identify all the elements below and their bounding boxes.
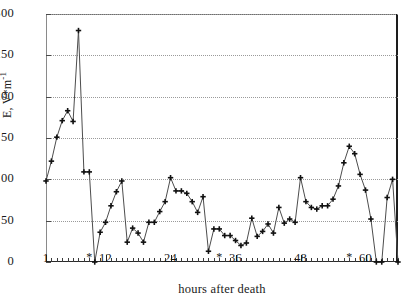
data-point bbox=[125, 239, 130, 244]
x-axis-star-marker: * bbox=[346, 250, 352, 265]
y-axis-tick-label: 300 bbox=[0, 7, 14, 19]
data-point bbox=[157, 209, 162, 214]
data-point bbox=[292, 220, 297, 225]
data-point bbox=[195, 210, 200, 215]
chart-figure: E, V*m-1 050100150200250300 11224364860*… bbox=[0, 0, 418, 304]
y-axis-title-exponent: -1 bbox=[0, 72, 8, 80]
data-point bbox=[114, 189, 119, 194]
data-point bbox=[87, 169, 92, 174]
data-point bbox=[249, 215, 254, 220]
data-point bbox=[97, 230, 102, 235]
data-point bbox=[374, 259, 379, 264]
data-point bbox=[336, 183, 341, 188]
y-axis-tick-label: 0 bbox=[0, 255, 14, 267]
data-series bbox=[46, 14, 398, 262]
data-point bbox=[298, 175, 303, 180]
y-axis-tick-label: 50 bbox=[0, 214, 14, 226]
data-point bbox=[395, 259, 400, 264]
data-point bbox=[190, 199, 195, 204]
data-point bbox=[162, 199, 167, 204]
data-point bbox=[271, 230, 276, 235]
plot-area bbox=[46, 14, 398, 262]
y-axis-tick-label: 150 bbox=[0, 131, 14, 143]
x-axis-tick-label: 24 bbox=[164, 251, 177, 266]
data-point bbox=[108, 203, 113, 208]
data-point bbox=[168, 175, 173, 180]
data-point bbox=[173, 188, 178, 193]
data-point bbox=[244, 240, 249, 245]
data-point bbox=[314, 206, 319, 211]
data-point bbox=[276, 205, 281, 210]
data-point bbox=[184, 191, 189, 196]
data-point bbox=[54, 134, 59, 139]
data-point bbox=[363, 187, 368, 192]
data-point bbox=[211, 226, 216, 231]
x-axis-star-marker: * bbox=[86, 250, 92, 265]
y-axis-tick-label: 100 bbox=[0, 172, 14, 184]
x-axis-tick-label: 1 bbox=[43, 251, 50, 266]
series-markers bbox=[43, 28, 400, 265]
data-point bbox=[341, 160, 346, 165]
data-point bbox=[384, 195, 389, 200]
data-point bbox=[141, 239, 146, 244]
data-point bbox=[65, 108, 70, 113]
data-point bbox=[81, 169, 86, 174]
data-point bbox=[368, 216, 373, 221]
data-point bbox=[119, 178, 124, 183]
data-point bbox=[390, 177, 395, 182]
x-axis-tick-label: 48 bbox=[294, 251, 307, 266]
data-point bbox=[179, 188, 184, 193]
data-point bbox=[146, 220, 151, 225]
data-point bbox=[152, 220, 157, 225]
series-line bbox=[46, 31, 398, 262]
data-point bbox=[49, 158, 54, 163]
data-point bbox=[103, 220, 108, 225]
data-point bbox=[43, 178, 48, 183]
data-point bbox=[76, 28, 81, 33]
data-point bbox=[319, 203, 324, 208]
x-axis-title: hours after death bbox=[46, 282, 398, 297]
data-point bbox=[200, 194, 205, 199]
data-point bbox=[92, 259, 97, 264]
y-axis-tick-label: 250 bbox=[0, 48, 14, 60]
data-point bbox=[60, 118, 65, 123]
data-point bbox=[379, 259, 384, 264]
data-point bbox=[70, 119, 75, 124]
data-point bbox=[206, 249, 211, 254]
x-axis-star-marker: * bbox=[216, 250, 222, 265]
x-axis-tick-label: 36 bbox=[229, 251, 242, 266]
x-axis-tick-label: 12 bbox=[99, 251, 112, 266]
x-axis-tick-label: 60 bbox=[359, 251, 372, 266]
y-axis-tick-label: 200 bbox=[0, 90, 14, 102]
data-point bbox=[357, 172, 362, 177]
